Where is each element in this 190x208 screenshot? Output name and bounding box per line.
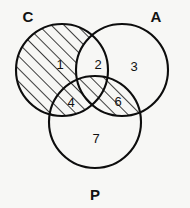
region-label-6: 6 xyxy=(114,94,121,109)
set-label-p: P xyxy=(90,186,100,203)
venn-diagram-figure: C A P 1 2 3 4 6 7 xyxy=(0,0,190,208)
region-label-4: 4 xyxy=(67,95,74,110)
region-label-3: 3 xyxy=(130,59,137,74)
region-label-2: 2 xyxy=(94,57,101,72)
region-label-7: 7 xyxy=(92,131,99,146)
region-label-1: 1 xyxy=(56,57,63,72)
venn-diagram-canvas: C A P 1 2 3 4 6 7 xyxy=(0,0,190,208)
set-label-a: A xyxy=(151,8,162,25)
set-label-c: C xyxy=(23,8,34,25)
